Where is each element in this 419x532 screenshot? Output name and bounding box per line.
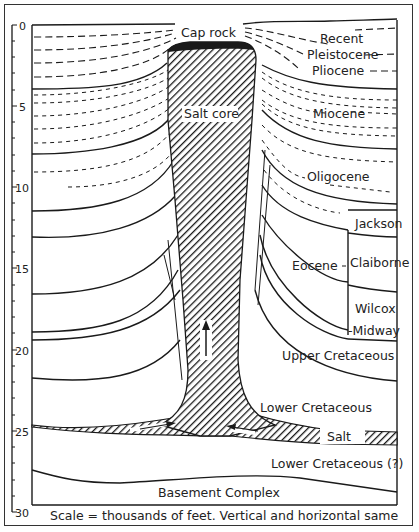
label-basement-complex: Basement Complex	[158, 485, 280, 500]
label-jackson: Jackson	[354, 216, 403, 231]
label-eocene: Eocene	[292, 258, 338, 273]
tick-label-20: 20	[15, 345, 29, 358]
salt-dome-cross-section: 0 5 10 15 20 25 30	[0, 0, 419, 532]
label-miocene: Miocene	[313, 106, 365, 121]
tick-label-30: 30	[15, 507, 29, 520]
strata-left	[32, 30, 182, 380]
tick-label-0: 0	[19, 20, 26, 33]
label-salt-core: Salt core	[184, 106, 239, 121]
label-midway: -Midway	[348, 323, 401, 338]
surface-right	[243, 19, 397, 24]
label-lower-cretaceous: Lower Cretaceous	[260, 400, 372, 415]
tick-label-10: 10	[15, 182, 29, 195]
label-salt: Salt	[327, 429, 351, 444]
scale-caption: Scale = thousands of feet. Vertical and …	[50, 508, 399, 523]
depth-scale: 0 5 10 15 20 25 30	[12, 20, 29, 520]
label-pleistocene: Pleistocene	[307, 47, 379, 62]
label-recent: Recent	[320, 31, 363, 46]
salt-core-shape	[160, 42, 275, 436]
upward-flow-arrow-icon	[200, 320, 212, 360]
label-pliocene: Pliocene	[312, 63, 365, 78]
tick-label-25: 25	[15, 426, 29, 439]
label-oligocene: Oligocene	[307, 169, 370, 184]
label-cap-rock: Cap rock	[181, 25, 237, 40]
surface-left	[32, 24, 175, 25]
label-lower-cretaceous-q: Lower Cretaceous (?)	[271, 456, 403, 471]
tick-label-15: 15	[15, 263, 29, 276]
label-wilcox: Wilcox	[355, 301, 396, 316]
label-claiborne: Claiborne	[350, 255, 410, 270]
label-upper-cretaceous: Upper Cretaceous	[282, 348, 394, 363]
tick-label-5: 5	[19, 101, 26, 114]
